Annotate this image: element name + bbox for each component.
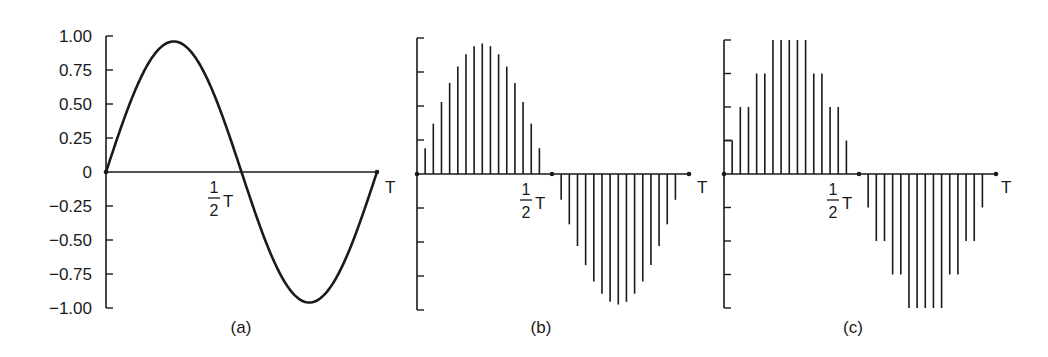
mid-dot <box>857 172 862 177</box>
origin-dot <box>415 172 420 177</box>
end-T-label: T <box>1001 178 1011 197</box>
half-T: T <box>842 194 852 213</box>
end-dot <box>994 172 999 177</box>
half-T-label: 1 2 T <box>827 181 852 221</box>
panel-b-sampled-sine: 1 2 T T (b) <box>415 38 708 337</box>
half-T: T <box>223 192 233 211</box>
half-T-label: 1 2 T <box>520 181 545 221</box>
y-tick-label: 1.00 <box>59 27 92 46</box>
panel-c-quantized-sine: 1 2 T T (c) <box>722 40 1012 337</box>
y-tick-label: 0.50 <box>59 95 92 114</box>
figure: 1.000.750.500.250−0.25−0.50−0.75−1.00 1 … <box>0 0 1048 357</box>
end-dot <box>687 172 692 177</box>
half-T: T <box>535 194 545 213</box>
y-tick-label: −0.75 <box>49 265 92 284</box>
y-tick-label: −1.00 <box>49 299 92 318</box>
half-denominator: 2 <box>522 204 531 221</box>
half-numerator: 1 <box>829 181 838 198</box>
half-denominator: 2 <box>210 202 219 219</box>
panel-caption: (b) <box>531 318 552 337</box>
panel-caption: (a) <box>231 318 252 337</box>
half-numerator: 1 <box>210 179 219 196</box>
end-T-label: T <box>385 178 395 197</box>
origin-dot <box>104 170 109 175</box>
half-numerator: 1 <box>522 181 531 198</box>
mid-dot <box>550 172 555 177</box>
half-denominator: 2 <box>829 204 838 221</box>
end-T-label: T <box>697 178 707 197</box>
y-tick-label: −0.25 <box>49 197 92 216</box>
y-tick-label: 0.75 <box>59 61 92 80</box>
origin-dot <box>722 172 727 177</box>
y-tick-label: 0.25 <box>59 129 92 148</box>
y-tick-labels: 1.000.750.500.250−0.25−0.50−0.75−1.00 <box>49 27 92 318</box>
y-tick-label: 0 <box>83 163 92 182</box>
panel-a-continuous-sine: 1.000.750.500.250−0.25−0.50−0.75−1.00 1 … <box>49 27 395 337</box>
end-dot <box>375 170 380 175</box>
half-T-label: 1 2 T <box>208 179 233 219</box>
panel-caption: (c) <box>843 318 863 337</box>
y-tick-label: −0.50 <box>49 231 92 250</box>
